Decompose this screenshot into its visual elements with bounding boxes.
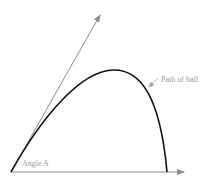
path-of-ball-label: Path of ball xyxy=(161,75,199,84)
path-label-pointer-arrow xyxy=(149,78,158,87)
ball-trajectory-curve xyxy=(11,70,167,172)
angle-a-label: Angle A xyxy=(22,159,49,168)
projectile-diagram: Path of ball Angle A xyxy=(0,0,217,180)
